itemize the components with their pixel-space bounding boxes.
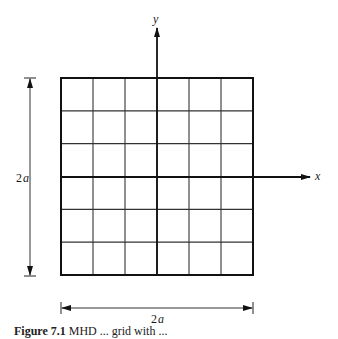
vertical-dimension-label: 2 a: [16, 170, 29, 186]
vertical-dimension-variable: a: [23, 171, 29, 185]
x-axis-label: x: [315, 170, 320, 182]
figure-number: Figure 7.1: [14, 324, 66, 338]
figure-caption: Figure 7.1 MHD ... grid with ...: [14, 325, 167, 337]
vertical-dimension-coefficient: 2: [16, 171, 22, 185]
caption-text: MHD ... grid with ...: [66, 324, 168, 338]
y-axis-label: y: [153, 13, 158, 25]
